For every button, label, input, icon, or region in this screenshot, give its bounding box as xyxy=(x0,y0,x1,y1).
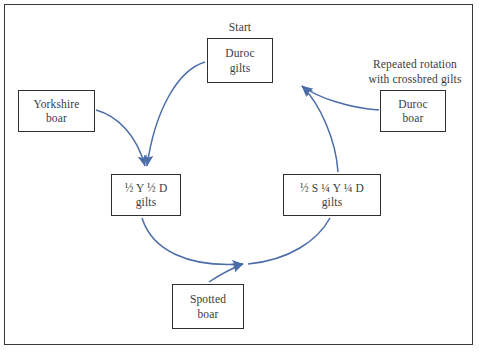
node-quarter-mix-line2: gilts xyxy=(322,195,343,210)
node-yorkshire-boar: Yorkshire boar xyxy=(18,90,95,132)
node-duroc-boar: Duroc boar xyxy=(380,90,446,132)
node-yorkshire-boar-line2: boar xyxy=(46,111,67,126)
node-spotted-boar: Spotted boar xyxy=(172,284,244,329)
node-half-s-quarter-y-quarter-d-gilts: ½ S ¼ Y ¼ D gilts xyxy=(283,174,381,216)
node-spotted-boar-line2: boar xyxy=(197,307,218,322)
crossbreeding-cycle-diagram: Start Repeated rotation with crossbred g… xyxy=(0,0,479,353)
start-label-text: Start xyxy=(207,20,273,35)
node-half-y-half-d-gilts: ½ Y ½ D gilts xyxy=(111,174,181,216)
repeated-rotation-line2: with crossbred gilts xyxy=(355,72,475,87)
repeated-rotation-line1: Repeated rotation xyxy=(355,57,475,72)
node-yorkshire-boar-line1: Yorkshire xyxy=(33,97,79,112)
node-spotted-boar-line1: Spotted xyxy=(190,292,226,307)
node-half-y-half-d-line2: gilts xyxy=(136,195,157,210)
start-label: Start xyxy=(207,20,273,35)
node-quarter-mix-line1: ½ S ¼ Y ¼ D xyxy=(300,181,364,196)
node-half-y-half-d-line1: ½ Y ½ D xyxy=(125,181,168,196)
repeated-rotation-label: Repeated rotation with crossbred gilts xyxy=(355,57,475,86)
node-duroc-gilts-line1: Duroc xyxy=(225,46,255,61)
node-duroc-boar-line1: Duroc xyxy=(398,97,428,112)
node-duroc-boar-line2: boar xyxy=(402,111,423,126)
node-duroc-gilts: Duroc gilts xyxy=(207,38,273,83)
node-duroc-gilts-line2: gilts xyxy=(230,61,251,76)
